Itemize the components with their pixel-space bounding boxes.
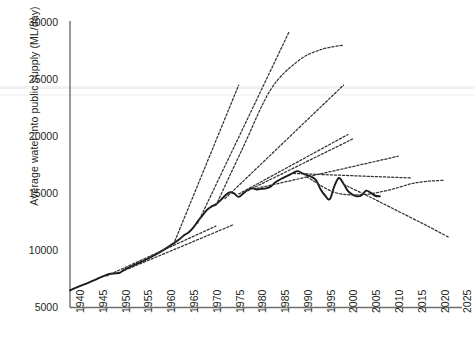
- projection-line: [225, 85, 344, 198]
- x-tick-label: 1995: [325, 289, 337, 312]
- x-tick-label: 1970: [211, 289, 223, 312]
- x-tick-label: 1985: [279, 289, 291, 312]
- x-tick-label: 1990: [302, 289, 314, 312]
- x-tick-label: 2000: [347, 289, 359, 312]
- axis-lines: [70, 21, 462, 308]
- x-tick-label: 2005: [370, 289, 382, 312]
- data-series-group: [70, 32, 448, 290]
- x-tick-label: 1950: [120, 289, 132, 312]
- projection-line: [175, 85, 239, 241]
- x-tick-label: 1945: [97, 289, 109, 312]
- projection-line: [248, 139, 353, 191]
- chart-container: Average water into public supply (ML/day…: [0, 0, 475, 345]
- x-tick-label: 2015: [416, 289, 428, 312]
- x-tick-label: 1940: [74, 289, 86, 312]
- x-tick-label: 2020: [439, 289, 451, 312]
- x-tick-label: 2025: [461, 289, 473, 312]
- projection-line: [307, 177, 444, 195]
- projection-line: [216, 45, 344, 205]
- projection-line: [106, 226, 215, 276]
- x-tick-label: 1955: [142, 289, 154, 312]
- x-tick-label: 1965: [188, 289, 200, 312]
- x-tick-label: 1960: [165, 289, 177, 312]
- data-line-actual: [70, 171, 380, 290]
- x-tick-label: 1980: [256, 289, 268, 312]
- x-tick-label: 1975: [234, 289, 246, 312]
- projection-line: [239, 134, 348, 194]
- x-tick-label: 2010: [393, 289, 405, 312]
- projection-line: [343, 184, 448, 237]
